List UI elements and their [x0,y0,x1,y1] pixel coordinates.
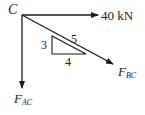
slope-run-label: 4 [65,55,71,69]
slope-rise-label: 3 [41,38,47,52]
slope-triangle [52,36,86,54]
force-label-40kn: 40 kN [101,8,134,23]
free-body-diagram: C 40 kN FAC FBC 3 4 5 [0,0,145,115]
slope-hypotenuse-label: 5 [71,32,77,46]
force-label-fbc: FBC [117,64,137,80]
fbc-subscript: BC [126,71,137,80]
force-label-fac: FAC [13,91,33,107]
point-label-c: C [8,2,18,17]
fac-subscript: AC [21,98,33,107]
